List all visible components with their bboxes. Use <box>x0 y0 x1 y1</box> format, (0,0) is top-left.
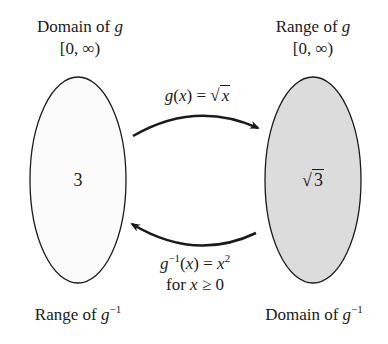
equals: = <box>192 86 210 105</box>
inverse-exponent: −1 <box>351 303 363 315</box>
equals: = <box>199 254 217 273</box>
sqrt-expression: √x <box>210 86 230 106</box>
range-of-g-label: Range of g <box>243 17 383 37</box>
range-of-g-inverse-label: Range of g−1 <box>8 305 148 326</box>
function-var: g <box>114 17 123 36</box>
function-var: g <box>342 17 351 36</box>
label-text: Domain of <box>265 305 342 324</box>
domain-of-g-label: Domain of g <box>10 17 150 37</box>
function-var: g <box>343 305 352 324</box>
sqrt-expression: √3 <box>302 170 324 191</box>
condition-var: x <box>190 275 198 294</box>
square-exponent: 2 <box>225 252 231 264</box>
function-name: g <box>165 86 174 105</box>
radicand: x <box>220 85 231 105</box>
domain-element: 3 <box>58 170 98 191</box>
range-interval: [0, ∞) <box>243 39 383 59</box>
label-text: Range of <box>35 305 101 324</box>
condition-text: for <box>166 275 190 294</box>
condition-text: ≥ 0 <box>198 275 224 294</box>
range-element: √3 <box>283 170 343 191</box>
arg-var: x <box>179 86 187 105</box>
rhs-var: x <box>217 254 225 273</box>
inverse-exponent: −1 <box>109 303 121 315</box>
forward-arrow <box>133 116 258 136</box>
radical-sign: √ <box>302 170 312 190</box>
inverse-arrow <box>132 224 256 246</box>
label-text: Range of <box>276 17 342 36</box>
inverse-exponent: −1 <box>168 252 180 264</box>
domain-interval: [0, ∞) <box>10 39 150 59</box>
forward-map-label: g(x) = √x <box>135 86 260 106</box>
inverse-map-label: g−1(x) = x2 <box>130 254 260 275</box>
inverse-condition: for x ≥ 0 <box>130 275 260 295</box>
radicand: 3 <box>312 169 324 190</box>
label-text: Domain of <box>37 17 114 36</box>
radical-sign: √ <box>210 86 219 105</box>
domain-of-g-inverse-label: Domain of g−1 <box>240 305 388 326</box>
